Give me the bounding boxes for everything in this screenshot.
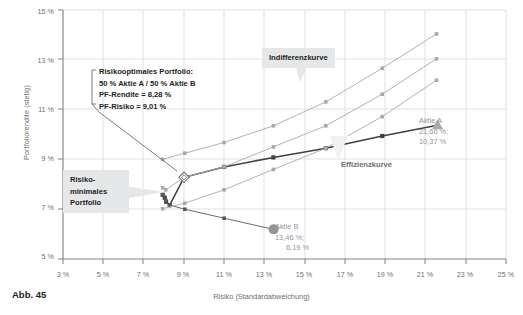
point-label-aktie-b: Aktie B 13,46 %; 6,19 % xyxy=(275,222,309,254)
data-point-marker xyxy=(435,32,439,36)
callout-indifferenzkurve-tail xyxy=(295,65,313,83)
point-label-aktie-a-risk: 21,60 %; xyxy=(419,127,448,138)
data-point-marker xyxy=(324,146,328,150)
data-point-marker xyxy=(324,100,328,104)
callout-risikominimales-portfolio: Risiko- minimales Portfolio xyxy=(63,170,129,213)
data-point-marker xyxy=(324,124,328,128)
data-point-marker xyxy=(222,216,226,220)
data-point-marker xyxy=(183,201,187,205)
callout-risikominimales-line3: Portfolio xyxy=(70,197,122,209)
callout-risikominimales-line1: Risiko- xyxy=(70,174,122,186)
data-point-marker xyxy=(380,134,384,138)
callout-indifferenzkurve-label: Indifferenzkurve xyxy=(269,53,328,62)
point-label-aktie-a: Aktie A 21,60 %; 10,37 % xyxy=(419,116,448,148)
series-line xyxy=(163,80,437,209)
annotation-risikooptimales-line3: PF-Rendite = 8,28 % xyxy=(99,89,195,101)
bracket-risikooptimales xyxy=(92,70,96,104)
point-label-aktie-a-title: Aktie A xyxy=(419,116,448,127)
data-point-marker xyxy=(222,188,226,192)
series-line xyxy=(163,195,274,230)
annotation-risikooptimales-line1: Risikooptimales Portfolio: xyxy=(99,66,195,78)
data-point-marker xyxy=(435,78,439,82)
series-untere-portfoliogrenze xyxy=(161,193,276,231)
data-point-marker xyxy=(183,151,187,155)
data-point-marker xyxy=(272,124,276,128)
series-line xyxy=(163,125,438,205)
data-point-marker xyxy=(272,145,276,149)
data-point-marker xyxy=(435,57,439,61)
annotation-risikooptimales-line2: 50 % Aktie A / 50 % Aktie B xyxy=(99,78,195,90)
figure-number-label: Abb. 45 xyxy=(12,289,46,300)
data-point-marker xyxy=(380,115,384,119)
figure-container: Portfoliorendite (stetig) 15 % 13 % 11 %… xyxy=(0,0,523,315)
label-effizienzkurve-tail xyxy=(330,136,356,162)
callout-risikominimales-tail xyxy=(124,186,166,202)
point-label-aktie-b-title: Aktie B xyxy=(275,222,309,233)
data-point-marker xyxy=(183,207,187,211)
data-point-marker xyxy=(271,155,275,159)
data-point-marker xyxy=(222,141,226,145)
point-label-aktie-b-risk: 13,46 %; xyxy=(275,233,309,244)
poi-risikooptimales-portfolio-marker xyxy=(179,172,189,182)
point-label-aktie-a-return: 10,37 % xyxy=(419,137,448,148)
data-point-marker xyxy=(161,207,165,211)
data-point-marker xyxy=(222,165,226,169)
series-indifferenzkurve-3 xyxy=(161,78,438,210)
callout-risikominimales-line2: minimales xyxy=(70,186,122,198)
data-point-marker xyxy=(272,168,276,172)
annotation-risikooptimales-line4: PF-Risiko = 9,01 % xyxy=(99,101,195,113)
x-axis-title: Risiko (Standardabweichung) xyxy=(0,292,523,301)
data-point-marker xyxy=(380,92,384,96)
data-point-marker xyxy=(380,67,384,71)
point-label-aktie-b-return: 6,19 % xyxy=(275,243,309,254)
leader-risikooptimales xyxy=(92,104,177,171)
annotation-risikooptimales-portfolio: Risikooptimales Portfolio: 50 % Aktie A … xyxy=(99,66,195,112)
